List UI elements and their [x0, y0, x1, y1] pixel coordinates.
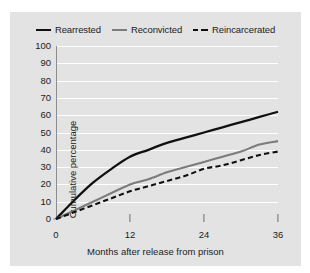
series-curves [0, 0, 310, 273]
recidivism-line-chart: RearrestedReconvictedReincarcerated 0102… [0, 0, 310, 273]
